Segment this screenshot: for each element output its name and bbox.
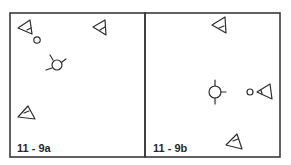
small-circle-icon (247, 89, 253, 95)
triangle-left-icon (212, 17, 226, 33)
panel-b-label: 11 - 9b (153, 142, 188, 154)
triangle-up-icon (18, 106, 35, 119)
panel-a-frame (10, 13, 145, 157)
triangle-left-icon (18, 20, 32, 34)
circle-with-spokes-icon (209, 80, 226, 104)
panel-a-label: 11 - 9a (17, 142, 52, 154)
panel-11-9b: 11 - 9b (145, 13, 280, 157)
circle-with-spokes-icon (46, 55, 66, 70)
triangle-left-icon (93, 20, 106, 35)
triangle-left-icon (257, 84, 272, 99)
triangle-up-icon (226, 134, 242, 149)
panel-11-9a: 11 - 9a (10, 13, 145, 157)
figure-diagram: 11 - 9a 11 - 9b (0, 0, 291, 165)
small-circle-icon (34, 37, 40, 43)
panel-b-frame (145, 13, 280, 157)
